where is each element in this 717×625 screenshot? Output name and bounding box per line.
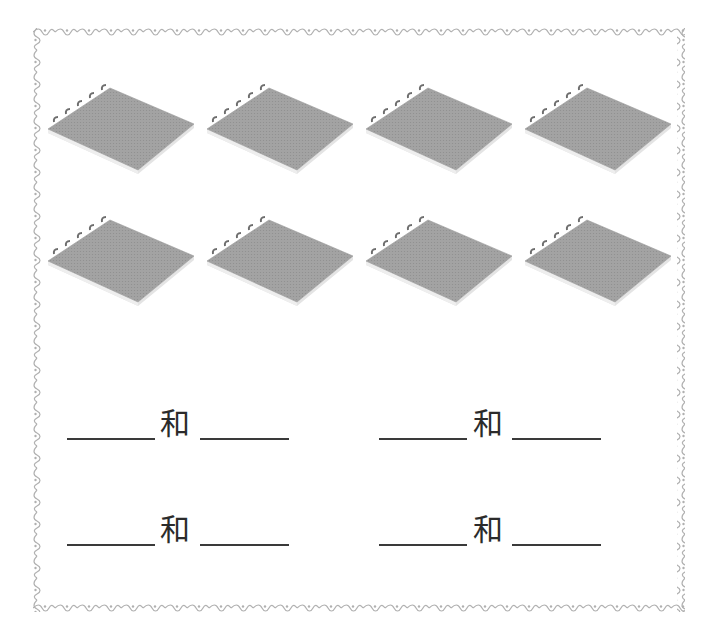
notebook-icon — [205, 214, 355, 306]
notebook-icon — [46, 214, 196, 306]
notebook-icon — [523, 214, 673, 306]
connector-he: 和 — [473, 515, 503, 545]
answer-blank-left[interactable] — [67, 438, 155, 440]
answer-blank-left[interactable] — [67, 544, 155, 546]
connector-he: 和 — [160, 409, 190, 439]
notebook-icon — [205, 82, 355, 174]
notebook-icon — [364, 82, 514, 174]
exercise-row: 和 — [379, 506, 603, 546]
answer-blank-left[interactable] — [379, 544, 467, 546]
answer-blank-right[interactable] — [512, 544, 601, 546]
exercise-row: 和 — [67, 506, 291, 546]
notebook-icon — [46, 82, 196, 174]
exercise-row: 和 — [379, 400, 603, 440]
connector-he: 和 — [473, 409, 503, 439]
answer-blank-left[interactable] — [379, 438, 467, 440]
notebook-icon — [364, 214, 514, 306]
connector-he: 和 — [160, 515, 190, 545]
answer-blank-right[interactable] — [200, 438, 289, 440]
exercise-row: 和 — [67, 400, 291, 440]
answer-blank-right[interactable] — [200, 544, 289, 546]
notebook-icon — [523, 82, 673, 174]
answer-blank-right[interactable] — [512, 438, 601, 440]
